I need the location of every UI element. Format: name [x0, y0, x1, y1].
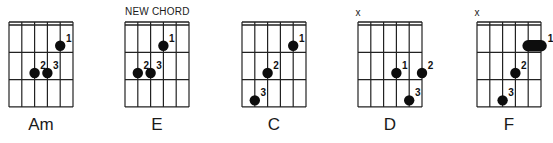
chord-f: x123 F	[473, 0, 553, 143]
chord-name-label: F	[469, 115, 549, 135]
chord-d: x123 D	[354, 0, 434, 143]
fretboard-diagram: x123	[473, 0, 553, 115]
finger-dot	[55, 41, 65, 51]
muted-string-marker: x	[356, 7, 361, 18]
finger-number: 3	[156, 60, 162, 71]
chord-c: 123 C	[238, 0, 318, 143]
fretboard-diagram: x123	[354, 0, 434, 115]
fretboard-diagram: 123	[5, 0, 85, 115]
finger-number: 3	[261, 87, 267, 98]
finger-number: 3	[415, 87, 421, 98]
finger-dot	[262, 68, 272, 78]
finger-dot	[404, 95, 414, 105]
finger-dot	[417, 68, 427, 78]
finger-number: 2	[428, 60, 434, 71]
finger-dot	[288, 41, 298, 51]
finger-number: 1	[299, 33, 305, 44]
chord-name-label: Am	[1, 115, 81, 135]
finger-dot	[145, 68, 155, 78]
finger-number: 1	[66, 33, 72, 44]
chord-chart: NEW CHORD 123 Am 123 E 123 C x123 D x123…	[0, 0, 553, 143]
muted-string-marker: x	[475, 7, 480, 18]
finger-dot	[497, 95, 507, 105]
finger-dot	[510, 68, 520, 78]
finger-number: 2	[521, 60, 527, 71]
chord-e: 123 E	[121, 0, 201, 143]
finger-number: 3	[508, 87, 514, 98]
finger-number: 2	[273, 60, 279, 71]
chord-am: 123 Am	[5, 0, 85, 143]
finger-dot	[133, 68, 143, 78]
finger-number: 3	[53, 60, 59, 71]
fretboard-diagram: 123	[121, 0, 201, 115]
finger-number: 1	[402, 60, 408, 71]
barre-marker	[522, 40, 546, 52]
chord-name-label: D	[350, 115, 430, 135]
finger-dot	[391, 68, 401, 78]
finger-number: 1	[548, 33, 553, 44]
finger-dot	[158, 41, 168, 51]
finger-number: 1	[169, 33, 175, 44]
fretboard-diagram: 123	[238, 0, 318, 115]
chord-name-label: C	[234, 115, 314, 135]
chord-name-label: E	[117, 115, 197, 135]
finger-dot	[250, 95, 260, 105]
finger-dot	[29, 68, 39, 78]
finger-dot	[42, 68, 52, 78]
